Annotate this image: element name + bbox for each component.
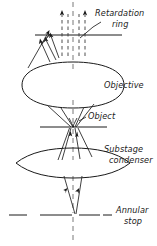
diffracted-beam-rays [39, 33, 59, 63]
diffracted-ray-long [28, 30, 50, 68]
condenser-object-rays [58, 128, 92, 160]
retardation-ring-label-line1: Retardation [95, 8, 144, 18]
direct-beam-rays [60, 10, 87, 56]
retardation-ring-leader [80, 22, 101, 38]
diagram-canvas: Retardation ring Objective Object Substa… [0, 0, 157, 246]
phase-contrast-ray-diagram: Retardation ring Objective Object Substa… [0, 0, 157, 246]
label-retardation-ring: Retardation ring [95, 8, 144, 29]
retardation-ring-label-line2: ring [112, 19, 128, 29]
annular-stop-label-line1: Annular [115, 205, 149, 215]
label-annular-stop: Annular stop [115, 205, 149, 226]
substage-condenser-label-line1: Substage [104, 144, 143, 154]
label-objective: Objective [104, 80, 144, 90]
substage-condenser-label-line2: condenser [109, 155, 153, 165]
annular-stop-label-line2: stop [124, 216, 142, 226]
label-substage-condenser: Substage condenser [104, 144, 153, 165]
label-object: Object [88, 111, 116, 121]
